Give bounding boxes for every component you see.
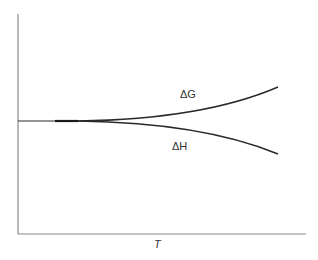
dg-label: ΔG xyxy=(180,89,196,100)
dh-label: ΔH xyxy=(172,141,187,152)
x-axis-label: T xyxy=(154,239,161,250)
chart-canvas xyxy=(0,0,318,260)
dg-curve xyxy=(78,87,278,121)
